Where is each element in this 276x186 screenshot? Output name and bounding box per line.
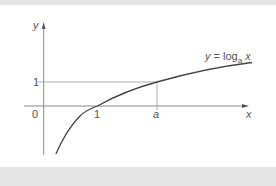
curve-label-suffix: x — [242, 50, 251, 62]
x-axis-label: x — [245, 108, 252, 120]
origin-label: 0 — [32, 108, 38, 120]
curve-label-prefix: = log — [211, 50, 238, 62]
y-axis-arrow-icon — [42, 22, 46, 29]
curve-label: y = loga x — [204, 50, 251, 65]
log-graph: y 1 0 1 a x y = loga x — [0, 0, 276, 186]
y-axis-label: y — [32, 19, 40, 31]
x-tick-a: a — [153, 108, 159, 120]
y-tick-1: 1 — [33, 76, 39, 88]
x-tick-1: 1 — [94, 108, 100, 120]
